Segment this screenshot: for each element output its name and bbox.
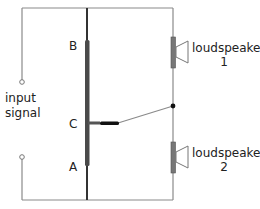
loudspeaker-1-name: loudspeaker <box>192 41 256 55</box>
terminal-a-label: A <box>69 160 77 174</box>
slider-contact <box>88 122 119 126</box>
loudspeaker-2-name: loudspeaker <box>192 146 256 160</box>
circuit-wires <box>22 8 173 200</box>
input-terminal-bottom <box>20 155 25 160</box>
loudspeaker-2-label: loudspeaker 2 <box>192 146 256 174</box>
circuit-diagram <box>0 0 260 209</box>
loudspeaker-1-number: 1 <box>192 55 256 69</box>
terminal-b-label: B <box>69 39 77 53</box>
input-label: input <box>5 91 36 105</box>
junction-dot <box>171 104 176 109</box>
rheostat <box>85 8 90 200</box>
signal-label: signal <box>5 106 41 120</box>
loudspeaker-2-number: 2 <box>192 160 256 174</box>
loudspeaker-1-icon <box>171 37 188 68</box>
terminal-c-label: C <box>69 117 77 131</box>
loudspeaker-1-label: loudspeaker 1 <box>192 41 256 69</box>
loudspeaker-2-icon <box>171 142 188 173</box>
input-terminal-top <box>20 80 25 85</box>
